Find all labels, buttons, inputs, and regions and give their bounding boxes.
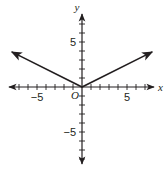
coordinate-plane: x y O −555−5	[0, 0, 168, 174]
y-tick-label: −5	[63, 126, 76, 138]
x-axis-label: x	[157, 81, 163, 93]
x-tick-label: −5	[31, 91, 44, 103]
y-axis-label: y	[74, 1, 80, 13]
y-tick-label: 5	[70, 36, 76, 48]
origin-label: O	[71, 89, 79, 101]
x-tick-label: 5	[124, 91, 130, 103]
